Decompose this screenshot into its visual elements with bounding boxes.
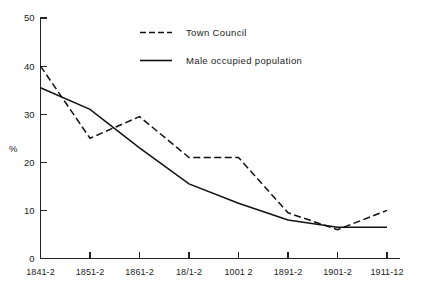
x-tick-label: 1891-2	[274, 267, 303, 277]
x-tick-marks	[90, 252, 387, 259]
legend-label-male-occupied-population: Male occupied population	[186, 55, 302, 66]
x-tick-label: 1911-12	[370, 267, 403, 277]
line-chart: 01020304050 % 1841-21851-21861-218/1-210…	[0, 0, 421, 297]
y-tick-label: 10	[24, 205, 35, 216]
y-tick-label: 50	[24, 12, 35, 23]
legend-label-town-council: Town Council	[186, 27, 247, 38]
x-tick-label: 1001 2	[224, 267, 252, 277]
x-tick-label: 18/1-2	[176, 267, 202, 277]
x-tick-labels: 1841-21851-21861-218/1-21001 21891-21901…	[26, 267, 403, 277]
x-tick-label: 1861-2	[125, 267, 154, 277]
y-tick-label: 40	[24, 61, 35, 72]
x-axis-group: 1841-21851-21861-218/1-21001 21891-21901…	[26, 252, 403, 278]
y-tick-label: 30	[24, 109, 35, 120]
y-tick-label: 0	[29, 253, 34, 264]
x-tick-label: 1851-2	[76, 267, 105, 277]
y-tick-marks	[41, 18, 47, 259]
x-tick-label: 1841-2	[26, 267, 55, 277]
y-tick-labels: 01020304050	[24, 12, 35, 264]
legend: Town Council Male occupied population	[140, 27, 302, 66]
y-axis-group: 01020304050 %	[9, 12, 47, 264]
series-group	[41, 66, 388, 230]
series-line-male-occupied-population	[41, 88, 388, 227]
y-axis-title: %	[9, 143, 18, 154]
chart-canvas: 01020304050 % 1841-21851-21861-218/1-210…	[0, 0, 421, 297]
y-tick-label: 20	[24, 157, 35, 168]
x-tick-label: 1901-2	[323, 267, 352, 277]
series-line-town-council	[41, 66, 388, 230]
